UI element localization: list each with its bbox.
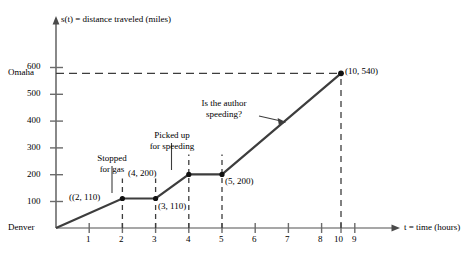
point-10-540 — [338, 70, 344, 76]
x-axis-arrowhead — [392, 225, 401, 232]
denver-label: Denver — [8, 222, 35, 232]
x-tick-label-4: 4 — [186, 234, 191, 244]
x-tick-label-7: 7 — [285, 234, 290, 244]
x-axis-title: t = time (hours) — [404, 222, 460, 232]
y-tick-label-500: 500 — [27, 88, 41, 98]
x-tick-label-8: 8 — [318, 234, 323, 244]
annotation-picked-up-speeding: Picked up for speeding — [134, 130, 210, 152]
point-5-200 — [219, 172, 224, 177]
omaha-label: Omaha — [8, 67, 34, 77]
axis-group — [53, 16, 400, 231]
annotation-speeding-line2: speeding? — [186, 109, 262, 120]
point-label-2-110: ((2, 110) — [69, 192, 100, 202]
x-tick-label-1: 1 — [86, 234, 91, 244]
point-label-3-110: (3, 110) — [158, 201, 186, 211]
x-tick-label-2: 2 — [119, 234, 124, 244]
annotation-picked-line2: for speeding — [134, 141, 210, 152]
annotation-is-author-speeding: Is the author speeding? — [186, 98, 262, 120]
graph-canvas — [0, 0, 473, 255]
y-tick-label-200: 200 — [27, 169, 41, 179]
annotation-stopped-for-gas: Stopped for gas — [83, 153, 141, 175]
y-tick-label-300: 300 — [27, 142, 41, 152]
x-tick-label-5: 5 — [219, 234, 224, 244]
x-tick-label-3: 3 — [152, 234, 157, 244]
point-2-110 — [120, 196, 125, 201]
y-axis-arrowhead — [53, 16, 60, 25]
point-label-10-540: (10, 540) — [345, 66, 378, 76]
y-axis-title: s(t) = distance traveled (miles) — [61, 14, 171, 24]
x-tick-label-6: 6 — [252, 234, 257, 244]
distance-time-graph: s(t) = distance traveled (miles) t = tim… — [0, 0, 473, 255]
annotation-stopped-line1: Stopped — [83, 153, 141, 164]
annotation-speeding-line1: Is the author — [186, 98, 262, 109]
annotation-stopped-line2: for gas — [83, 164, 141, 175]
point-label-5-200: (5, 200) — [225, 176, 254, 186]
annotation-picked-line1: Picked up — [134, 130, 210, 141]
x-tick-label-10: 10 — [334, 234, 343, 244]
y-tick-label-100: 100 — [27, 196, 41, 206]
point-4-200 — [186, 172, 191, 177]
y-tick-label-400: 400 — [27, 115, 41, 125]
x-tick-label-9: 9 — [352, 234, 357, 244]
